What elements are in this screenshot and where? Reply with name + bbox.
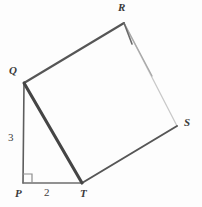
edge-RT: [124, 23, 132, 44]
figure-canvas: [0, 0, 202, 207]
measurement-label-PT: 2: [44, 187, 50, 198]
measurement-label-PQ: 3: [8, 132, 14, 143]
geometry-figure: Q R S P T 3 2: [0, 0, 202, 207]
vertex-label-Q: Q: [9, 65, 17, 76]
vertex-label-S: S: [184, 117, 190, 128]
right-angle-marker-P: [23, 174, 32, 183]
edge-TS: [82, 126, 177, 183]
vertex-label-R: R: [118, 2, 125, 13]
edge-QT: [24, 83, 82, 183]
vertex-label-P: P: [15, 188, 22, 199]
edge-PQ: [23, 83, 24, 183]
edge-group: [23, 23, 177, 183]
edge-RS-hidden-fade: [124, 23, 152, 76]
edge-QR: [24, 23, 124, 83]
vertex-label-T: T: [80, 188, 87, 199]
